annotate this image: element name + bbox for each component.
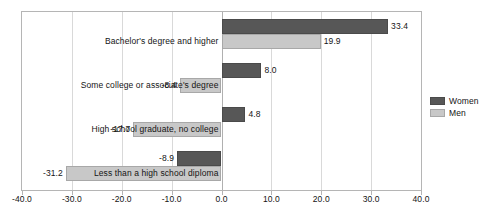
value-label: 4.8 (248, 109, 260, 119)
bar-women (222, 19, 389, 34)
bar-women (177, 151, 221, 166)
gridline (72, 12, 73, 190)
legend-item-men[interactable]: Men (430, 108, 479, 118)
x-axis-tick-label: -30.0 (49, 194, 95, 205)
legend-swatch-women-icon (430, 97, 445, 105)
category-label: Less than a high school diploma (94, 168, 219, 178)
value-label: -8.4 (162, 80, 177, 90)
x-axis-tick-label: 10.0 (248, 194, 294, 205)
legend-label-women: Women (449, 96, 479, 107)
legend-label-men: Men (449, 108, 466, 119)
x-axis-tick-label: 30.0 (348, 194, 394, 205)
x-axis-tick-label: 0.0 (199, 194, 245, 205)
bar-men (222, 34, 321, 49)
value-label: -31.2 (43, 168, 63, 178)
legend-swatch-men-icon (430, 109, 445, 117)
x-axis-tick-label: 20.0 (298, 194, 344, 205)
value-label: 19.9 (324, 36, 341, 46)
x-axis-tick-label: -40.0 (0, 194, 45, 205)
value-label: 33.4 (391, 21, 408, 31)
x-axis-tick-label: 40.0 (398, 194, 444, 205)
gridline (321, 12, 322, 190)
gridline (371, 12, 372, 190)
plot-area (21, 11, 422, 191)
value-label: -17.7 (110, 124, 130, 134)
category-label: Bachelor's degree and higher (105, 36, 219, 46)
chart-legend: Women Men (430, 96, 479, 120)
value-label: 8.0 (264, 65, 276, 75)
legend-item-women[interactable]: Women (430, 96, 479, 106)
value-label: -8.9 (159, 153, 174, 163)
category-label: Some college or associate's degree (81, 80, 219, 90)
chart-container: Bachelor's degree and higherSome college… (0, 0, 498, 221)
bar-women (222, 107, 246, 122)
x-axis-tick-label: -10.0 (149, 194, 195, 205)
x-axis-tick-label: -20.0 (99, 194, 145, 205)
bar-women (222, 63, 262, 78)
